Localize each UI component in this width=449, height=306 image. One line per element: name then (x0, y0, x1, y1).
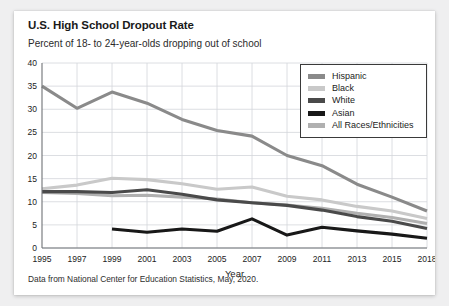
x-tick-label: 2001 (138, 254, 157, 264)
y-tick-label: 10 (28, 197, 38, 207)
x-tick-label: 2018 (418, 254, 435, 264)
chart-y-tick-labels: 0510152025303540 (28, 58, 38, 253)
y-tick-label: 0 (32, 243, 37, 253)
legend-item[interactable]: Hispanic (308, 70, 420, 82)
chart-card: U.S. High School Dropout Rate Percent of… (14, 11, 435, 295)
legend-item[interactable]: Asian (308, 107, 420, 119)
legend-swatch-icon (308, 111, 325, 116)
chart-plot-area: 0510152025303540 19951997199920012003200… (14, 11, 435, 295)
x-tick-label: 1999 (103, 254, 122, 264)
y-tick-label: 30 (28, 104, 38, 114)
y-tick-label: 20 (28, 151, 38, 161)
legend-item-label: White (332, 96, 355, 105)
x-tick-label: 2005 (208, 254, 227, 264)
x-tick-label: 2009 (278, 254, 297, 264)
legend-item[interactable]: All Races/Ethnicities (308, 120, 420, 132)
x-tick-label: 2013 (348, 254, 367, 264)
x-tick-label: 2003 (173, 254, 192, 264)
chart-x-tick-labels: 1995199719992001200320052007200920112013… (33, 254, 435, 264)
legend-swatch-icon (308, 74, 325, 79)
legend-swatch-icon (308, 98, 325, 103)
x-tick-label: 1997 (68, 254, 87, 264)
legend-swatch-icon (308, 86, 325, 91)
legend-swatch-icon (308, 123, 325, 128)
series-line-asian (112, 219, 427, 238)
line-chart-svg: 0510152025303540 19951997199920012003200… (14, 11, 435, 295)
legend-item[interactable]: White (308, 95, 420, 107)
chart-legend: HispanicBlackWhiteAsianAll Races/Ethnici… (300, 64, 427, 138)
x-tick-label: 2007 (243, 254, 262, 264)
legend-item-label: Asian (332, 109, 355, 118)
x-tick-label: 1995 (33, 254, 52, 264)
series-line-black (42, 178, 427, 218)
y-tick-label: 5 (32, 220, 37, 230)
y-tick-label: 25 (28, 127, 38, 137)
y-tick-label: 35 (28, 81, 38, 91)
legend-item[interactable]: Black (308, 82, 420, 94)
legend-item-label: Hispanic (332, 72, 367, 81)
legend-item-label: Black (332, 84, 354, 93)
y-tick-label: 15 (28, 174, 38, 184)
y-tick-label: 40 (28, 58, 38, 68)
legend-item-label: All Races/Ethnicities (332, 121, 414, 130)
x-tick-label: 2015 (383, 254, 402, 264)
chart-source-note: Data from National Center for Education … (28, 274, 258, 284)
x-tick-label: 2011 (313, 254, 332, 264)
